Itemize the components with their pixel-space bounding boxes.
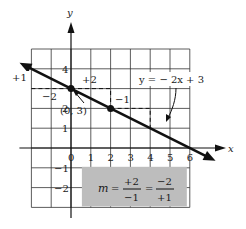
data-point: [107, 105, 114, 112]
slope-den-2: +1: [157, 192, 172, 203]
y-axis-arrowhead: [68, 22, 75, 33]
rise-right-label: −1: [115, 94, 130, 105]
y-tick-label: −2: [54, 183, 69, 194]
run-left-label: −2: [42, 91, 57, 102]
slope-num-2: −2: [157, 176, 172, 187]
slope-den-1: −1: [124, 192, 139, 203]
x-tick-label: 2: [108, 152, 114, 163]
slope-eq-1: =: [111, 183, 119, 194]
slope-num-1: +2: [124, 176, 139, 187]
x-axis-arrowhead: [215, 145, 226, 152]
data-point: [68, 85, 75, 92]
slope-eq-2: =: [145, 183, 153, 194]
x-tick-label: 3: [127, 152, 133, 163]
x-tick-label: 6: [187, 152, 193, 163]
rise-left-label: +1: [12, 72, 27, 83]
x-tick-label: 5: [167, 152, 173, 163]
y-tick-label: 1: [62, 123, 68, 134]
coordinate-plane: 0123456421−1−2 x y y = − 2x + 3 (0, 3) +…: [0, 0, 246, 229]
slope-m: m: [98, 182, 108, 195]
x-axis-label: x: [228, 143, 234, 154]
y-tick-label: −1: [54, 163, 69, 174]
run-right-label: +2: [82, 74, 97, 85]
x-tick-label: 1: [88, 152, 94, 163]
x-tick-label: 4: [147, 152, 153, 163]
y-tick-label: 4: [62, 64, 68, 75]
x-tick-label: 0: [68, 152, 74, 163]
y-axis-label: y: [66, 7, 73, 18]
point-label: (0, 3): [60, 105, 87, 116]
equation-label: y = − 2x + 3: [138, 74, 204, 85]
equation-pointer: [168, 88, 176, 118]
